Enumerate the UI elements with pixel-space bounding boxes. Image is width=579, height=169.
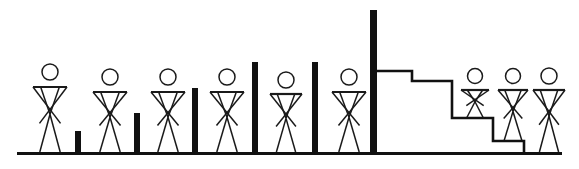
ground-line [17, 152, 562, 155]
bar-3 [192, 88, 198, 152]
background-rect [0, 0, 579, 169]
baseline-group [17, 152, 562, 155]
bar-5 [312, 62, 318, 152]
diagram-canvas [0, 0, 579, 169]
bar-6 [370, 10, 377, 152]
bar-4 [252, 62, 258, 152]
bar-2 [134, 113, 140, 152]
bar-1 [75, 131, 81, 152]
stickfigure-staircase-illustration [0, 0, 579, 169]
